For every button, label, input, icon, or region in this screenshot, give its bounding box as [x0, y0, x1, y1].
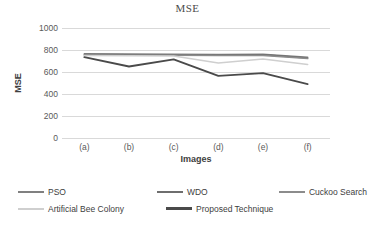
x-axis-tick-label: (a): [64, 142, 104, 152]
series-line: [84, 57, 307, 84]
legend-item[interactable]: Proposed Technique: [166, 204, 273, 214]
series-lines: [62, 28, 330, 138]
legend-label: Artificial Bee Colony: [48, 204, 124, 214]
x-axis-tick-label: (d): [198, 142, 238, 152]
legend-label: Proposed Technique: [196, 204, 273, 214]
legend-row: PSOWDOCuckoo Search: [18, 183, 367, 200]
grid-line: [62, 138, 330, 139]
x-axis-tick-label: (b): [109, 142, 149, 152]
legend-item[interactable]: WDO: [157, 187, 279, 197]
y-axis-tick-label: 200: [0, 111, 58, 121]
chart-title: MSE: [0, 2, 375, 14]
legend-swatch-icon: [166, 207, 192, 210]
x-axis-tick-label: (c): [154, 142, 194, 152]
y-axis-tick-label: 400: [0, 89, 58, 99]
legend-label: PSO: [48, 187, 66, 197]
legend-swatch-icon: [279, 191, 305, 193]
y-axis-tick-label: 600: [0, 67, 58, 77]
legend-item[interactable]: Artificial Bee Colony: [18, 204, 166, 214]
legend-swatch-icon: [18, 191, 44, 193]
legend-item[interactable]: PSO: [18, 187, 157, 197]
legend-row: Artificial Bee ColonyProposed Technique: [18, 200, 367, 217]
y-axis-tick-label: 1000: [0, 23, 58, 33]
legend-label: Cuckoo Search: [309, 187, 367, 197]
legend-item[interactable]: Cuckoo Search: [279, 187, 367, 197]
y-axis-tick-label: 0: [0, 133, 58, 143]
legend-label: WDO: [187, 187, 208, 197]
plot-area: [62, 28, 330, 138]
x-axis-title: Images: [62, 154, 330, 164]
mse-line-chart: MSE MSE 10008006004002000 (a)(b)(c)(d)(e…: [0, 0, 375, 232]
x-axis-tick-label: (e): [243, 142, 283, 152]
x-axis-tick-label: (f): [288, 142, 328, 152]
legend-swatch-icon: [18, 208, 44, 210]
legend-swatch-icon: [157, 191, 183, 193]
y-axis-tick-label: 800: [0, 45, 58, 55]
chart-legend: PSOWDOCuckoo Search Artificial Bee Colon…: [18, 183, 367, 217]
